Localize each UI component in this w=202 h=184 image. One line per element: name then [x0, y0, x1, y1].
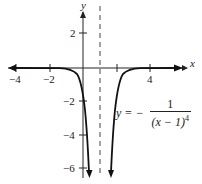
denominator-exponent: 4: [185, 114, 189, 123]
y-tick-label: −4: [63, 129, 75, 141]
y-axis-arrow-icon: [80, 11, 86, 18]
x-axis-label: x: [189, 57, 195, 69]
equation-denominator: (x − 1)4: [150, 112, 191, 129]
y-tick-label: 2: [70, 27, 76, 39]
x-tick-label: 4: [147, 73, 153, 85]
equation-numerator: 1: [165, 98, 175, 111]
x-tick-label: −2: [43, 73, 55, 85]
down-arrow-left-icon: [86, 170, 93, 178]
right-arrow-icon: [174, 65, 183, 72]
equation-annotation: y = − 1 (x − 1)4: [116, 98, 191, 129]
y-axis-label: y: [80, 0, 86, 11]
equation-lhs: y = −: [116, 106, 144, 121]
down-arrow-right-icon: [108, 170, 114, 178]
y-tick-label: −2: [63, 95, 75, 107]
y-tick-label: −6: [63, 162, 75, 174]
equation-fraction: 1 (x − 1)4: [150, 98, 191, 129]
left-arrow-icon: [8, 65, 16, 72]
function-graph: x y −4 −2 4 2 −2 −4 −6: [0, 0, 202, 184]
denominator-base: (x − 1): [152, 115, 185, 129]
x-tick-label: −4: [9, 73, 21, 85]
